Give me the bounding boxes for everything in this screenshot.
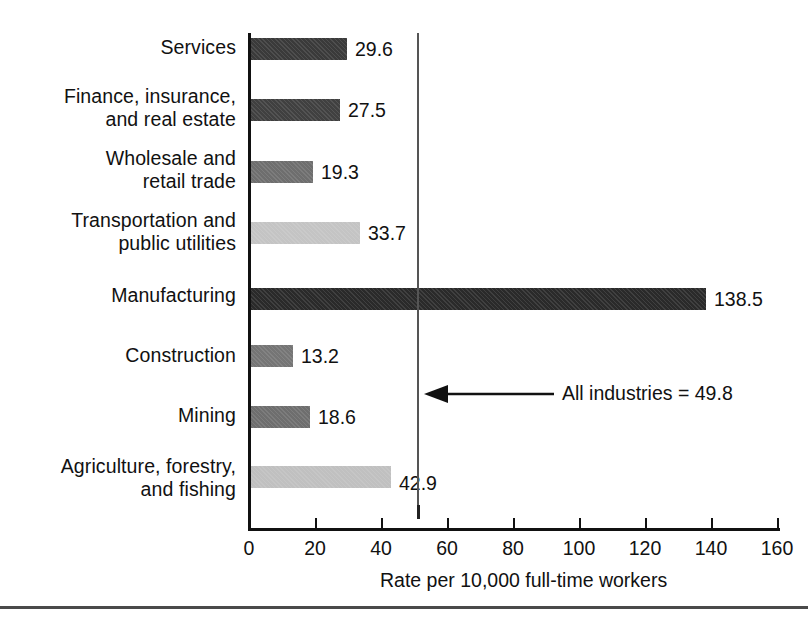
category-label: Finance, insurance, and real estate bbox=[64, 85, 236, 131]
x-tick-label: 120 bbox=[629, 536, 662, 560]
x-tick bbox=[513, 518, 515, 529]
bar-value-label: 19.3 bbox=[321, 161, 359, 183]
category-label: Services bbox=[160, 36, 236, 59]
chart-figure: Services Finance, insurance, and real es… bbox=[0, 0, 808, 627]
bar-manufacturing bbox=[249, 288, 706, 310]
bar-mining bbox=[249, 406, 310, 428]
category-label: Mining bbox=[178, 404, 236, 427]
x-tick-label: 0 bbox=[244, 536, 255, 560]
bar-services bbox=[249, 38, 347, 60]
bar-agriculture-forestry-fishing bbox=[249, 466, 391, 488]
x-tick bbox=[447, 518, 449, 529]
category-label: Agriculture, forestry, and fishing bbox=[61, 455, 236, 501]
x-tick bbox=[249, 518, 251, 529]
x-tick-label: 40 bbox=[370, 536, 392, 560]
annotation-label: All industries = 49.8 bbox=[562, 382, 733, 405]
x-tick bbox=[579, 518, 581, 529]
x-tick bbox=[315, 518, 317, 529]
bottom-divider bbox=[0, 606, 808, 609]
x-tick bbox=[645, 518, 647, 529]
bar-value-label: 33.7 bbox=[368, 222, 406, 244]
bar-value-label: 18.6 bbox=[318, 406, 356, 428]
x-tick-label: 80 bbox=[502, 536, 524, 560]
bar-wholesale-retail-trade bbox=[249, 161, 313, 183]
category-label: Construction bbox=[125, 344, 236, 367]
y-axis-line bbox=[248, 33, 251, 528]
bar-finance-insurance-real-estate bbox=[249, 99, 340, 121]
x-tick bbox=[711, 518, 713, 529]
bar-value-label: 29.6 bbox=[355, 38, 393, 60]
bar-value-label: 27.5 bbox=[348, 99, 386, 121]
category-label: Manufacturing bbox=[111, 284, 236, 307]
x-tick-label: 100 bbox=[563, 536, 596, 560]
reference-line-tick bbox=[417, 505, 420, 519]
annotation-arrow-icon bbox=[424, 382, 554, 406]
x-axis-title: Rate per 10,000 full-time workers bbox=[380, 568, 667, 592]
x-tick bbox=[777, 518, 779, 529]
bar-construction bbox=[249, 345, 293, 367]
reference-line bbox=[417, 33, 419, 516]
bar-value-label: 13.2 bbox=[301, 345, 339, 367]
category-label: Wholesale and retail trade bbox=[106, 147, 236, 193]
x-tick-label: 20 bbox=[304, 536, 326, 560]
bar-transportation-public-utilities bbox=[249, 222, 360, 244]
x-tick-label: 160 bbox=[761, 536, 794, 560]
category-label: Transportation and public utilities bbox=[71, 209, 236, 255]
x-tick bbox=[381, 518, 383, 529]
x-tick-label: 60 bbox=[436, 536, 458, 560]
bar-value-label: 138.5 bbox=[714, 288, 763, 310]
x-tick-label: 140 bbox=[695, 536, 728, 560]
